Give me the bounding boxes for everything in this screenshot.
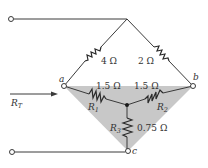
node-c-terminal [126,149,131,154]
label-node-b: b [193,72,199,82]
center-junction-dot [125,103,129,107]
resistor-2-ohm [127,19,193,86]
label-4-ohm: 4 Ω [101,56,117,66]
label-2-ohm: 2 Ω [138,56,154,66]
rt-arrow [10,92,58,97]
terminal-bottom-left [10,150,15,155]
label-r1-value: 1.5 Ω [96,81,121,91]
terminal-top-left [9,17,14,22]
label-node-c: c [132,146,137,156]
label-r3-value: 0.75 Ω [137,123,167,133]
label-node-a: a [59,74,64,84]
node-b-terminal [191,84,196,89]
label-rt: RT [10,98,23,110]
resistor-4-ohm [64,19,127,86]
label-r2-value: 1.5 Ω [134,81,159,91]
circuit-diagram: 4 Ω 2 Ω a b c 1.5 Ω 1.5 Ω 0.75 Ω R1 R2 R… [0,0,208,168]
node-a-terminal [62,84,67,89]
